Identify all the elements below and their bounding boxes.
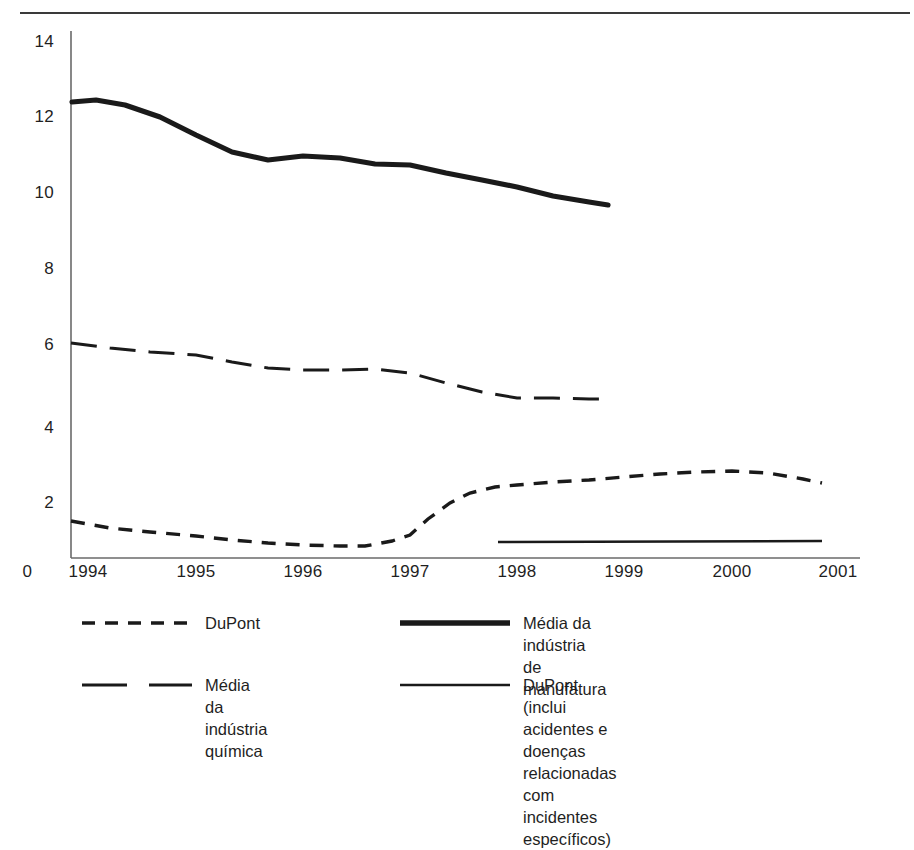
legend-label-dupont: DuPont — [205, 612, 260, 634]
thick-line-swatch — [400, 618, 510, 628]
legend-label-dupont-incidentes: DuPont (inclui acidentes e doenças relac… — [523, 674, 617, 850]
series-line-manufatura — [72, 100, 608, 205]
series-line-dupont — [71, 471, 822, 546]
legend-label-quimica: Média da indústria química — [205, 674, 267, 762]
series-line-dupont-incidentes — [498, 541, 822, 542]
dashed-line-swatch — [82, 680, 192, 690]
series-line-quimica — [71, 343, 606, 399]
dotted-line-swatch — [82, 618, 192, 628]
chart-legend: DuPont Média da indústria de manufatura … — [0, 600, 914, 720]
thin-line-swatch — [400, 680, 510, 690]
